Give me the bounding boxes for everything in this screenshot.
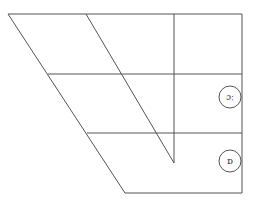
vowel-symbol: ɒ <box>227 156 233 166</box>
chart-grid <box>8 14 242 193</box>
vowel-marker-open-back: ɒ <box>219 150 241 172</box>
vowel-chart: ɔː ɒ <box>0 0 255 205</box>
central-diagonal <box>86 14 174 163</box>
vowel-symbol: ɔː <box>226 92 234 102</box>
vowel-marker-open-mid-back: ɔː <box>219 86 241 108</box>
left-diagonal-edge <box>8 14 125 193</box>
